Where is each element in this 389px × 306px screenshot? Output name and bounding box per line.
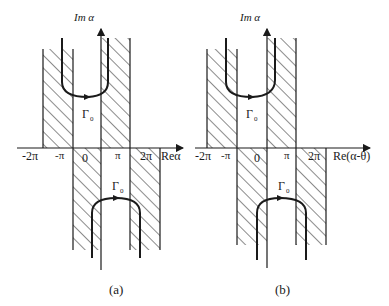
tick-label: 2π [140, 149, 152, 163]
horizontal-axis-label: Reα [161, 149, 181, 163]
contour-diagram: Im α Reα -2π -π 0 π 2π Γ 0 Γ 0 (a) Im α … [0, 0, 389, 306]
tick-label: π [115, 149, 121, 161]
upper-right-strip [101, 38, 130, 148]
upper-contour-arrow-icon [84, 94, 91, 100]
lower-contour-arrow-icon [277, 195, 284, 201]
upper-left-strip [43, 49, 73, 148]
upper-contour-arrow-icon [248, 94, 255, 100]
vertical-axis-label: Im α [73, 11, 94, 23]
horizontal-axis-label: Re(α-θ) [333, 149, 370, 163]
panel-caption: (a) [109, 282, 123, 297]
lower-right-strip [130, 148, 160, 250]
lower-contour-subscript: 0 [286, 187, 290, 195]
upper-right-strip [267, 38, 296, 148]
upper-contour-label: Γ [82, 107, 89, 121]
tick-label: 0 [254, 151, 260, 165]
lower-left-strip [237, 148, 267, 245]
upper-left-strip [207, 49, 237, 148]
upper-contour-subscript: 0 [254, 115, 258, 123]
tick-label: π [284, 149, 290, 161]
lower-contour-label: Γ [112, 179, 119, 193]
panel-caption: (b) [275, 282, 290, 297]
upper-contour-label: Γ [246, 107, 253, 121]
tick-label: -π [55, 149, 65, 161]
lower-contour-label: Γ [278, 179, 285, 193]
tick-label: -π [221, 149, 231, 161]
tick-label: -2π [22, 149, 38, 163]
tick-label: 2π [308, 149, 320, 163]
tick-label: 0 [82, 151, 88, 165]
upper-contour-subscript: 0 [90, 115, 94, 123]
vertical-axis-label: Im α [239, 11, 260, 23]
panel-a: Im α Reα -2π -π 0 π 2π Γ 0 Γ 0 (a) [17, 11, 183, 297]
lower-contour-subscript: 0 [120, 187, 124, 195]
lower-contour-arrow-icon [113, 195, 120, 201]
panel-b: Im α Re(α-θ) -2π -π 0 π 2π Γ 0 Γ 0 (b) [195, 11, 370, 297]
tick-label: -2π [195, 149, 211, 163]
